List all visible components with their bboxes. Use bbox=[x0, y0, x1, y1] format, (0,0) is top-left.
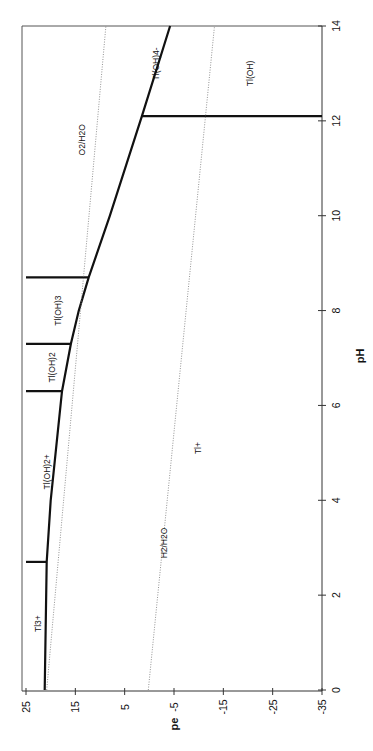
ph-tick-label: 0 bbox=[330, 687, 342, 693]
region-label: Tl+ bbox=[193, 442, 203, 454]
region-label: H2/H2O bbox=[159, 527, 169, 558]
region-label: Tl(OH) bbox=[245, 60, 255, 86]
pe-tick-label: 25 bbox=[20, 701, 32, 713]
region-label: Tl(OH)4- bbox=[151, 47, 161, 80]
region-label: Tl3+ bbox=[33, 615, 43, 632]
x-axis-title: pH bbox=[354, 349, 366, 364]
axis-ticks: 25155-5-15-25-3502468101214 bbox=[20, 20, 342, 715]
region-label: Tl(OH)2 bbox=[47, 352, 57, 382]
pe-tick-label: -25 bbox=[267, 699, 279, 714]
plot-frame bbox=[22, 26, 322, 691]
region-label: Tl(OH)2+ bbox=[42, 454, 52, 489]
eh-ph-diagram: 25155-5-15-25-3502468101214 Tl3+Tl(OH)2+… bbox=[0, 0, 373, 751]
pe-tick-label: 5 bbox=[119, 704, 131, 710]
boundary-lines bbox=[26, 26, 322, 690]
region-labels: Tl3+Tl(OH)2+Tl(OH)2Tl(OH)3Tl(OH)4-O2/H2O… bbox=[33, 47, 255, 632]
region-label: Tl(OH)3 bbox=[53, 295, 63, 325]
ph-tick-label: 2 bbox=[330, 592, 342, 598]
water-stability-line bbox=[148, 26, 214, 690]
ph-tick-label: 6 bbox=[330, 402, 342, 408]
ph-tick-label: 4 bbox=[330, 497, 342, 503]
pe-tick-label: -15 bbox=[217, 699, 229, 714]
ph-tick-label: 12 bbox=[330, 115, 342, 127]
pe-tick-label: -35 bbox=[316, 699, 328, 714]
ph-tick-label: 10 bbox=[330, 210, 342, 222]
y-axis-title: pe bbox=[168, 718, 180, 731]
region-label: O2/H2O bbox=[77, 124, 87, 156]
species-boundary-line bbox=[45, 26, 170, 690]
ph-tick-label: 8 bbox=[330, 307, 342, 313]
pe-tick-label: -5 bbox=[168, 702, 180, 711]
pe-tick-label: 15 bbox=[69, 701, 81, 713]
ph-tick-label: 14 bbox=[330, 20, 342, 32]
